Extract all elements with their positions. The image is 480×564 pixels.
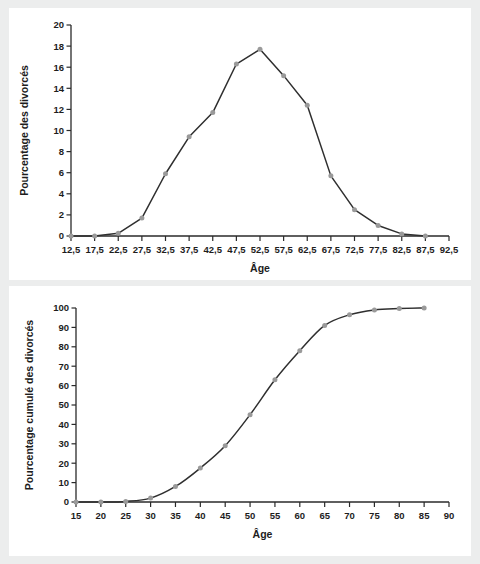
y-tick-label: 12 <box>53 104 64 115</box>
data-point-marker <box>223 443 228 448</box>
data-point-marker <box>422 306 427 311</box>
data-point-marker <box>69 234 74 239</box>
data-point-marker <box>248 412 253 417</box>
x-tick-label: 47,5 <box>227 244 246 255</box>
x-tick-label: 40 <box>195 510 206 521</box>
x-tick-label: 42,5 <box>204 244 223 255</box>
cropped-caption-remnant <box>70 0 340 7</box>
x-tick-label: 25 <box>120 510 131 521</box>
y-tick-label: 80 <box>58 341 69 352</box>
data-point-marker <box>328 173 333 178</box>
data-point-marker <box>148 496 153 501</box>
y-tick-label: 16 <box>53 62 64 73</box>
x-tick-label: 57,5 <box>274 244 293 255</box>
x-tick-label: 55 <box>270 510 281 521</box>
x-tick-label: 30 <box>145 510 156 521</box>
y-tick-label: 50 <box>58 399 69 410</box>
data-point-marker <box>187 134 192 139</box>
x-tick-label: 60 <box>295 510 306 521</box>
data-point-marker <box>123 499 128 504</box>
data-point-marker <box>281 73 286 78</box>
chart-panel-distribution: 0246810121416182012,517,522,527,532,537,… <box>9 8 471 280</box>
data-point-marker <box>198 466 203 471</box>
data-point-marker <box>352 207 357 212</box>
y-tick-label: 20 <box>53 19 64 30</box>
data-point-marker <box>116 231 121 236</box>
x-tick-label: 22,5 <box>109 244 128 255</box>
x-tick-label: 70 <box>344 510 355 521</box>
x-tick-label: 72,5 <box>345 244 364 255</box>
page-root: 0246810121416182012,517,522,527,532,537,… <box>0 0 480 564</box>
y-tick-label: 2 <box>59 209 64 220</box>
data-point-marker <box>399 231 404 236</box>
x-tick-label: 20 <box>96 510 107 521</box>
x-tick-label: 17,5 <box>85 244 104 255</box>
data-point-marker <box>74 500 79 505</box>
x-tick-label: 75 <box>369 510 380 521</box>
data-point-marker <box>423 234 428 239</box>
series-line <box>76 308 424 502</box>
x-tick-label: 77,5 <box>369 244 388 255</box>
y-tick-label: 14 <box>53 83 64 94</box>
x-tick-label: 62,5 <box>298 244 317 255</box>
y-tick-label: 8 <box>59 146 64 157</box>
x-tick-label: 65 <box>319 510 330 521</box>
y-axis-title: Pourcentage des divorcés <box>18 65 30 196</box>
data-point-marker <box>98 500 103 505</box>
y-tick-label: 30 <box>58 438 69 449</box>
data-point-marker <box>173 484 178 489</box>
x-tick-label: 37,5 <box>180 244 199 255</box>
x-tick-label: 80 <box>394 510 405 521</box>
y-tick-label: 40 <box>58 419 69 430</box>
series-line <box>71 49 425 236</box>
data-point-marker <box>92 234 97 239</box>
data-point-marker <box>372 307 377 312</box>
y-tick-label: 100 <box>53 302 69 313</box>
data-point-marker <box>376 223 381 228</box>
chart-panel-cumulative: 0102030405060708090100152025303540455055… <box>9 286 471 556</box>
data-point-marker <box>322 323 327 328</box>
data-point-marker <box>397 306 402 311</box>
x-tick-label: 45 <box>220 510 231 521</box>
x-tick-label: 15 <box>71 510 82 521</box>
data-point-marker <box>305 103 310 108</box>
y-tick-label: 60 <box>58 380 69 391</box>
data-point-marker <box>347 312 352 317</box>
data-point-marker <box>258 47 263 52</box>
y-tick-label: 4 <box>59 188 65 199</box>
y-tick-label: 90 <box>58 322 69 333</box>
x-tick-label: 52,5 <box>251 244 270 255</box>
x-tick-label: 67,5 <box>322 244 341 255</box>
data-point-marker <box>163 171 168 176</box>
x-tick-label: 32,5 <box>156 244 175 255</box>
x-tick-label: 92,5 <box>440 244 459 255</box>
y-tick-label: 0 <box>59 230 64 241</box>
x-tick-label: 27,5 <box>133 244 152 255</box>
y-tick-label: 10 <box>58 477 69 488</box>
data-point-marker <box>234 62 239 67</box>
x-tick-label: 12,5 <box>62 244 81 255</box>
data-point-marker <box>272 377 277 382</box>
x-tick-label: 85 <box>419 510 430 521</box>
x-tick-label: 82,5 <box>393 244 412 255</box>
divorce-distribution-chart: 0246810121416182012,517,522,527,532,537,… <box>9 8 471 280</box>
x-tick-label: 87,5 <box>416 244 435 255</box>
x-axis-title: Âge <box>250 262 270 274</box>
x-tick-label: 50 <box>245 510 256 521</box>
y-tick-label: 20 <box>58 458 69 469</box>
y-tick-label: 18 <box>53 41 64 52</box>
data-point-marker <box>297 348 302 353</box>
data-point-marker <box>210 110 215 115</box>
x-tick-label: 35 <box>170 510 181 521</box>
y-tick-label: 6 <box>59 167 64 178</box>
x-tick-label: 90 <box>444 510 455 521</box>
x-axis-title: Âge <box>253 528 273 540</box>
y-tick-label: 0 <box>64 496 69 507</box>
y-tick-label: 70 <box>58 361 69 372</box>
data-point-marker <box>139 216 144 221</box>
y-tick-label: 10 <box>53 125 64 136</box>
divorce-cumulative-chart: 0102030405060708090100152025303540455055… <box>9 286 471 556</box>
y-axis-title: Pourcentage cumulé des divorcés <box>23 320 35 491</box>
